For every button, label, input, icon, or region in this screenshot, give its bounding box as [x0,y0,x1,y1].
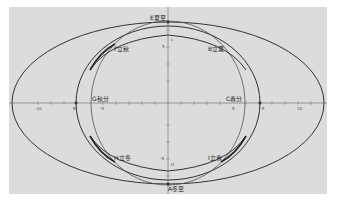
axis-marker-right: E [262,107,265,111]
label-start-of-spring: I立春 [208,155,222,161]
label-spring-equinox: C春分 [226,96,242,102]
y-tick-5: 5 [162,45,165,49]
axis-marker-left: B [73,107,76,111]
x-tick-neg10: -10 [35,107,42,111]
label-start-of-autumn: F立秋 [114,46,129,52]
axis-marker-top: L [171,38,173,42]
axis-marker-bottom: H [171,163,174,167]
label-autumn-equinox: G秋分 [92,96,109,102]
diagram-canvas [0,0,337,206]
x-tick-neg5: -5 [100,107,104,111]
x-tick-10: 10 [297,107,302,111]
y-tick-neg5: -5 [160,157,164,161]
label-winter-solstice: A冬至 [168,186,184,192]
label-summer-solstice: E夏至 [150,15,166,21]
label-start-of-winter: H立冬 [114,155,131,161]
label-start-of-summer: B立夏 [208,46,224,52]
x-tick-5: 5 [232,107,235,111]
